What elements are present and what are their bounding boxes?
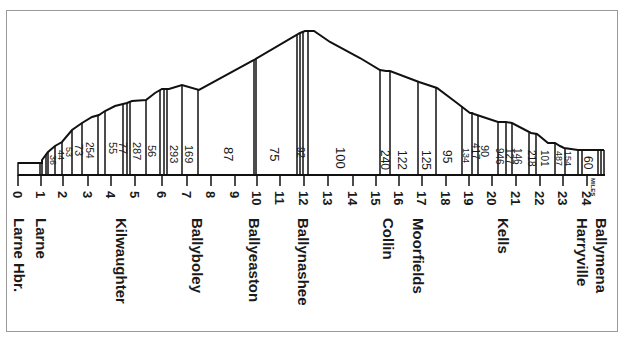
gradient-label: 122 <box>395 150 409 170</box>
gradient-label: 90 <box>479 145 491 157</box>
gradient-label: 56 <box>146 145 158 157</box>
mile-label: 22 <box>532 191 547 205</box>
mile-labels: 0 1 2 3 4 5 6 7 8 9 10 11 12 13 14 15 16… <box>10 191 594 206</box>
gradient-label: 60 <box>581 156 595 170</box>
gradient-label: 487 <box>554 151 564 166</box>
gradient-label: 92 <box>295 147 306 159</box>
gradient-label: 254 <box>84 142 95 159</box>
gradient-label: 87 <box>221 147 236 161</box>
mile-label: 16 <box>391 191 406 205</box>
mile-label: 9 <box>227 191 242 198</box>
station-label: Ballyeaston <box>246 218 263 302</box>
profile-line <box>18 31 604 163</box>
mile-label: 8 <box>203 191 218 198</box>
gradient-label: 125 <box>419 150 433 170</box>
station-label: Larne <box>33 218 50 259</box>
mile-label: 13 <box>320 191 335 205</box>
mile-label: 12 <box>296 191 311 205</box>
gradient-label: 95 <box>440 150 454 164</box>
mile-label: 2 <box>55 191 70 198</box>
station-label: Kells <box>495 218 512 254</box>
mile-label: 5 <box>127 191 142 198</box>
station-label: Larne Hbr. <box>11 218 28 292</box>
gradient-label: 169 <box>183 145 195 163</box>
station-label: Ballymena <box>593 218 610 294</box>
station-label: Collin <box>380 218 397 260</box>
terminus-box <box>18 163 40 175</box>
station-label: Kilwaughter <box>113 218 130 304</box>
gradient-label: 218 <box>526 150 537 167</box>
gradient-label: 293 <box>168 145 180 163</box>
gradient-label: 75 <box>267 147 282 161</box>
mile-label: 18 <box>438 191 453 205</box>
mile-label: 14 <box>345 191 360 206</box>
mile-label: 4 <box>103 191 118 199</box>
station-label: Ballyboley <box>189 218 206 294</box>
mile-label: 3 <box>80 191 95 198</box>
gradient-label: 100 <box>333 147 348 169</box>
mile-label: 11 <box>272 191 287 205</box>
gradient-label: 134 <box>461 148 471 163</box>
mile-label: 6 <box>154 191 169 198</box>
gradient-label: 53 <box>64 147 74 157</box>
mile-label: 0 <box>10 191 25 198</box>
mile-label: 23 <box>555 191 570 205</box>
mile-label: 7 <box>179 191 194 198</box>
mile-label: 20 <box>484 191 499 205</box>
mile-label: 10 <box>249 191 264 205</box>
station-labels: Larne Hbr. Larne Kilwaughter Ballyboley … <box>11 218 610 306</box>
gradient-profile-diagram: 0 1 2 3 4 5 6 7 8 9 10 11 12 13 14 15 16… <box>0 0 632 343</box>
station-label: Harryville <box>574 218 591 286</box>
mile-label: 21 <box>508 191 523 205</box>
gradient-label: 77 <box>117 142 129 154</box>
gradient-label: 946 <box>494 148 505 165</box>
mile-label: 15 <box>368 191 383 205</box>
gradient-label: 154 <box>563 151 573 166</box>
mile-label: 1 <box>33 191 48 198</box>
gradient-label: 240 <box>378 150 392 170</box>
station-label: Ballynashee <box>295 218 312 306</box>
mile-label: 19 <box>461 191 476 205</box>
gradient-label: 73 <box>73 144 85 156</box>
mile-label: 17 <box>414 191 429 205</box>
gradient-label: 101 <box>539 150 550 167</box>
gradient-label: 146 <box>512 148 523 165</box>
gradient-label: 287 <box>131 142 143 160</box>
axis-unit-label: MILES <box>590 178 596 196</box>
mile-ticks <box>18 175 587 186</box>
station-label: Moorfields <box>410 218 427 294</box>
